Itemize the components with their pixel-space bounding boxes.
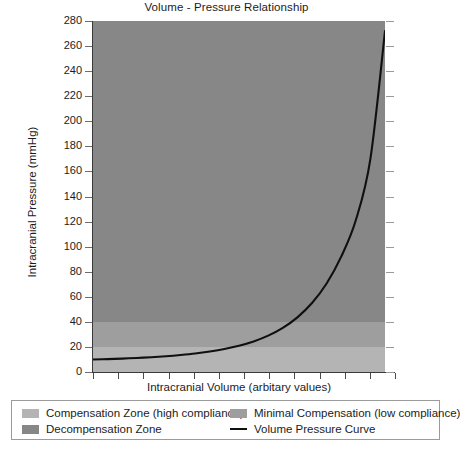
y-tick-label: 220 — [42, 90, 82, 101]
legend-label-minimal-compensation: Minimal Compensation (low compliance) — [254, 407, 460, 419]
x-tick-mark — [194, 373, 195, 379]
y-tick-mark — [85, 272, 92, 273]
y-tick-label: 60 — [42, 291, 82, 302]
y-tick-label: 100 — [42, 241, 82, 252]
x-tick-mark — [169, 373, 170, 379]
y-tick-label: 160 — [42, 165, 82, 176]
y-tick-mark — [85, 171, 92, 172]
y-tick-mark — [85, 46, 92, 47]
y-tick-mark — [85, 146, 92, 147]
y-tick-mark-right — [386, 71, 394, 72]
legend-label-compensation-zone: Compensation Zone (high compliance) — [46, 407, 244, 419]
y-tick-mark — [85, 297, 92, 298]
legend-label-decompensation-zone: Decompensation Zone — [46, 423, 162, 435]
x-tick-mark — [370, 373, 371, 379]
legend-item-decompensation-zone: Decompensation Zone — [22, 423, 162, 435]
y-tick-label: 180 — [42, 140, 82, 151]
y-tick-mark — [85, 71, 92, 72]
volume-pressure-curve — [93, 21, 385, 372]
legend-swatch-minimal-compensation — [230, 409, 247, 418]
y-tick-label: 0 — [42, 366, 82, 377]
y-tick-mark-right — [386, 121, 394, 122]
y-tick-label: 40 — [42, 316, 82, 327]
y-tick-mark — [85, 121, 92, 122]
y-tick-mark-right — [386, 21, 394, 22]
y-tick-label: 80 — [42, 266, 82, 277]
x-tick-mark — [219, 373, 220, 379]
legend-item-compensation-zone: Compensation Zone (high compliance) — [22, 407, 244, 419]
chart-legend: Compensation Zone (high compliance) Deco… — [11, 400, 440, 440]
x-tick-mark — [294, 373, 295, 379]
chart-title: Volume - Pressure Relationship — [0, 1, 453, 13]
x-tick-mark — [93, 373, 94, 379]
y-tick-mark — [85, 347, 92, 348]
y-tick-mark — [85, 21, 92, 22]
y-tick-mark-right — [386, 297, 394, 298]
y-axis-label: Intracranial Pressure (mmHg) — [26, 52, 38, 352]
y-axis-line — [92, 21, 93, 373]
legend-swatch-compensation-zone — [22, 409, 39, 418]
x-tick-mark — [118, 373, 119, 379]
x-tick-mark — [345, 373, 346, 379]
x-axis-label: Intracranial Volume (arbitary values) — [93, 381, 385, 393]
legend-swatch-decompensation-zone — [22, 425, 39, 434]
y-tick-mark-right — [386, 171, 394, 172]
y-tick-mark-right — [386, 372, 394, 373]
legend-item-volume-pressure-curve: Volume Pressure Curve — [230, 423, 375, 435]
plot-area — [93, 21, 385, 372]
y-tick-label: 200 — [42, 115, 82, 126]
y-tick-mark — [85, 96, 92, 97]
y-tick-label: 280 — [42, 15, 82, 26]
y-tick-label: 140 — [42, 191, 82, 202]
y-tick-label: 120 — [42, 216, 82, 227]
x-tick-mark — [320, 373, 321, 379]
y-tick-mark-right — [386, 322, 394, 323]
y-tick-mark — [85, 247, 92, 248]
x-tick-mark — [244, 373, 245, 379]
legend-line-volume-pressure-curve — [230, 428, 247, 430]
y-tick-mark-right — [386, 96, 394, 97]
y-tick-label: 240 — [42, 65, 82, 76]
y-tick-mark — [85, 322, 92, 323]
y-tick-mark-right — [386, 46, 394, 47]
y-tick-label: 260 — [42, 40, 82, 51]
y-tick-mark-right — [386, 146, 394, 147]
y-tick-mark — [85, 372, 92, 373]
y-tick-mark-right — [386, 347, 394, 348]
y-tick-mark-right — [386, 247, 394, 248]
legend-label-volume-pressure-curve: Volume Pressure Curve — [254, 423, 375, 435]
x-tick-mark — [395, 373, 396, 379]
x-tick-mark — [269, 373, 270, 379]
y-tick-mark — [85, 197, 92, 198]
y-tick-mark-right — [386, 197, 394, 198]
y-tick-mark-right — [386, 272, 394, 273]
y-tick-mark-right — [386, 222, 394, 223]
x-tick-mark — [143, 373, 144, 379]
y-tick-mark — [85, 222, 92, 223]
legend-item-minimal-compensation: Minimal Compensation (low compliance) — [230, 407, 460, 419]
y-tick-label: 20 — [42, 341, 82, 352]
